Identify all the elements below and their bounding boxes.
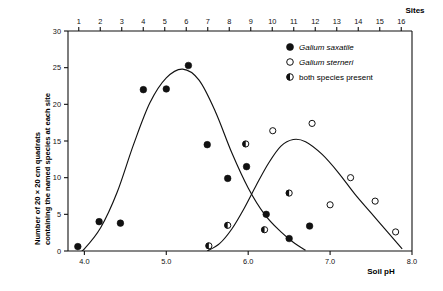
marker-filled-circle (286, 235, 293, 242)
chart-figure: 0510152025304.05.06.07.08.01234567891011… (0, 0, 443, 291)
data-point (75, 243, 82, 250)
series-filled-circle (75, 62, 313, 250)
marker-filled-circle (306, 223, 313, 230)
legend-item: Galium sterneri (287, 58, 354, 67)
data-point (185, 62, 192, 69)
marker-open-circle (347, 175, 353, 181)
marker-filled-circle (140, 86, 147, 93)
top-tick-label: 11 (290, 17, 298, 26)
fitted-curve (72, 69, 305, 258)
data-point (96, 218, 103, 225)
legend-item: Galium saxatile (287, 43, 355, 52)
axis-ticks (64, 27, 412, 255)
data-point (224, 222, 230, 229)
top-tick-label: 6 (184, 17, 188, 26)
marker-half-circle-fill (261, 226, 264, 233)
legend-label: both species present (299, 73, 374, 82)
marker-filled-circle (117, 220, 124, 227)
marker-filled-circle (243, 163, 250, 170)
top-tick-label: 9 (249, 17, 253, 26)
marker-open-circle (327, 202, 333, 208)
data-point (204, 141, 211, 148)
data-point (286, 190, 292, 197)
marker-filled-circle (96, 218, 103, 225)
top-tick-label: 15 (376, 17, 384, 26)
legend-marker (287, 74, 294, 81)
y-tick-label: 25 (53, 63, 61, 72)
x-tick-label: 5.0 (161, 257, 171, 266)
marker-filled-circle (163, 86, 170, 93)
data-point (117, 220, 124, 227)
top-tick-label: 5 (163, 17, 167, 26)
y-axis-title-line1: Number of 20 × 20 cm quadrats (33, 132, 42, 245)
top-tick-label: 8 (227, 17, 231, 26)
y-tick-label: 15 (53, 137, 61, 146)
x-axis-title: Soil pH (367, 267, 395, 276)
data-point (393, 229, 399, 235)
legend-marker (287, 44, 294, 51)
y-axis-title-line2: containing the named species at each sit… (43, 93, 52, 245)
chart-legend: Galium saxatileGalium sterneriboth speci… (287, 43, 374, 82)
x-tick-label: 7.0 (325, 257, 335, 266)
marker-open-circle (270, 128, 276, 134)
data-point (270, 128, 276, 134)
top-axis-title: Sites (405, 6, 425, 15)
legend-label: Galium sterneri (299, 58, 353, 67)
y-tick-label: 20 (53, 100, 61, 109)
y-axis-title: Number of 20 × 20 cm quadrats containing… (33, 93, 52, 245)
data-point (224, 175, 231, 182)
data-point (286, 235, 293, 242)
top-tick-label: 4 (141, 17, 145, 26)
marker-filled-circle (185, 62, 192, 69)
axes (68, 31, 412, 251)
x-tick-label: 8.0 (407, 257, 417, 266)
top-tick-label: 14 (354, 17, 362, 26)
data-point (263, 211, 270, 218)
data-point (206, 243, 212, 250)
data-point (243, 163, 250, 170)
y-tick-label: 5 (57, 210, 61, 219)
top-tick-label: 16 (397, 17, 405, 26)
top-tick-label: 13 (333, 17, 341, 26)
y-tick-label: 10 (53, 173, 61, 182)
y-tick-label: 30 (53, 27, 61, 36)
data-point (306, 223, 313, 230)
data-point (261, 226, 267, 233)
marker-half-circle-fill (224, 222, 227, 229)
axis-tick-labels: 0510152025304.05.06.07.08.01234567891011… (53, 17, 417, 266)
marker-filled-circle (204, 141, 211, 148)
top-tick-label: 7 (206, 17, 210, 26)
marker-open-circle (393, 229, 399, 235)
x-tick-label: 4.0 (79, 257, 89, 266)
legend-item: both species present (287, 73, 374, 82)
marker-half-circle-fill (286, 190, 289, 197)
legend-marker (287, 59, 294, 66)
marker-filled-circle (75, 243, 82, 250)
y-tick-label: 0 (57, 247, 61, 256)
marker-open-circle (372, 198, 378, 204)
data-point (140, 86, 147, 93)
top-tick-label: 10 (268, 17, 276, 26)
marker-filled-circle (263, 211, 270, 218)
marker-filled-circle (224, 175, 231, 182)
data-point (309, 120, 315, 126)
fitted-curve (207, 139, 402, 251)
marker-filled-circle (287, 44, 294, 51)
series-open-circle (270, 120, 399, 235)
marker-half-circle-fill (287, 74, 291, 81)
data-point (163, 86, 170, 93)
scatter-plot-svg: 0510152025304.05.06.07.08.01234567891011… (0, 0, 443, 291)
fitted-curves (72, 69, 402, 258)
series-half-filled-circle (206, 141, 293, 250)
data-point (242, 141, 248, 148)
data-point (347, 175, 353, 181)
legend-label: Galium saxatile (299, 43, 354, 52)
marker-half-circle-fill (206, 243, 209, 250)
top-tick-label: 2 (98, 17, 102, 26)
x-tick-label: 6.0 (243, 257, 253, 266)
data-point (327, 202, 333, 208)
marker-half-circle-fill (242, 141, 245, 148)
top-tick-label: 1 (77, 17, 81, 26)
top-tick-label: 3 (120, 17, 124, 26)
data-point (372, 198, 378, 204)
